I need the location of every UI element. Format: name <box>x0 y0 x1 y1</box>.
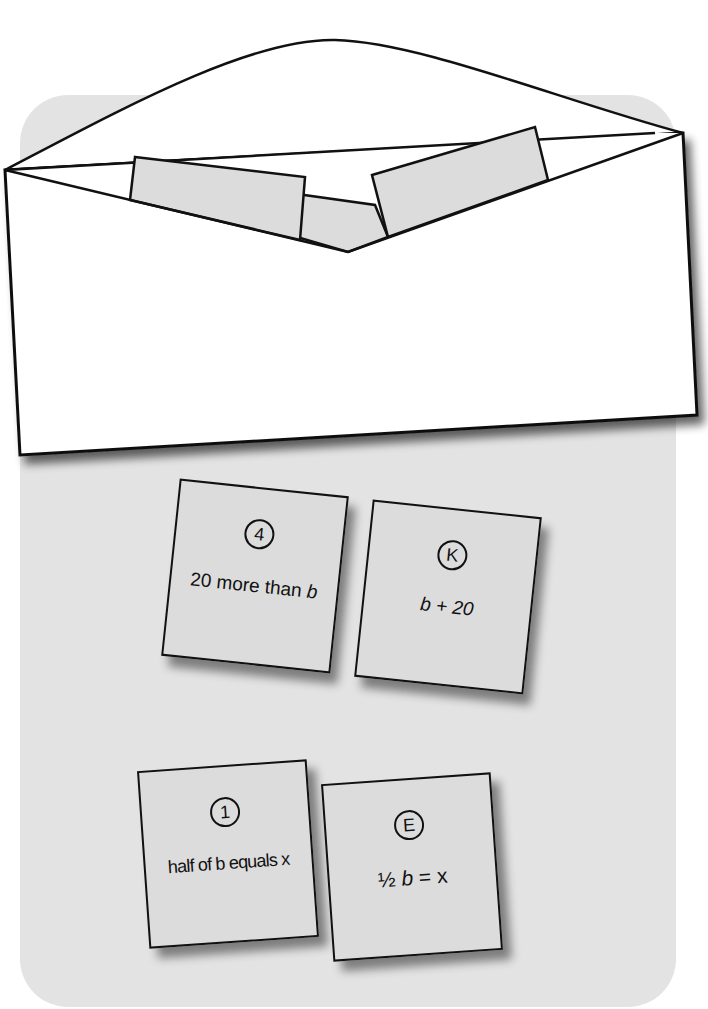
card-1: 1 half of b equals x <box>137 759 319 948</box>
card-k: K b + 20 <box>354 500 542 695</box>
card-badge: 4 <box>243 518 276 551</box>
card-text: ½ b = x <box>329 860 496 896</box>
card-text: 20 more than b <box>170 566 337 605</box>
card-text: half of b equals x <box>145 847 312 880</box>
card-text: b + 20 <box>363 587 530 626</box>
card-e: E ½ b = x <box>321 772 503 961</box>
card-badge: 1 <box>209 796 241 828</box>
envelope-illustration <box>0 0 708 480</box>
card-badge: E <box>393 809 425 841</box>
card-badge: K <box>436 539 469 572</box>
card-4: 4 20 more than b <box>161 479 349 674</box>
